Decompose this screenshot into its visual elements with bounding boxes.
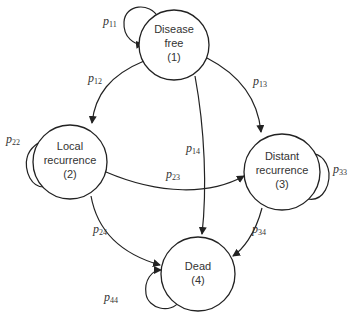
label-p24: p24 xyxy=(92,222,107,237)
node1-line1: Disease xyxy=(154,23,194,35)
node3-line3: (3) xyxy=(275,178,288,190)
node2-line2: recurrence xyxy=(44,154,97,166)
label-p12: p12 xyxy=(87,71,102,86)
label-p34: p34 xyxy=(251,222,266,237)
edge-p13 xyxy=(207,58,261,132)
node1-line2: free xyxy=(165,37,184,49)
label-p13: p13 xyxy=(252,74,267,89)
label-p44: p44 xyxy=(103,290,118,305)
node3-line1: Distant xyxy=(265,150,299,162)
label-p14: p14 xyxy=(185,141,200,156)
node1-line3: (1) xyxy=(167,51,180,63)
node2-line3: (2) xyxy=(63,168,76,180)
edge-p12 xyxy=(92,61,144,123)
label-p33: p33 xyxy=(332,162,347,177)
label-p22: p22 xyxy=(5,132,20,147)
label-p23: p23 xyxy=(165,167,180,182)
state-diagram: Disease free (1) Local recurrence (2) Di… xyxy=(0,0,355,313)
node2-line1: Local xyxy=(57,140,83,152)
node3-line2: recurrence xyxy=(256,164,309,176)
label-p11: p11 xyxy=(102,14,117,29)
node4-line1: Dead xyxy=(185,260,211,272)
node4-line2: (4) xyxy=(191,274,204,286)
